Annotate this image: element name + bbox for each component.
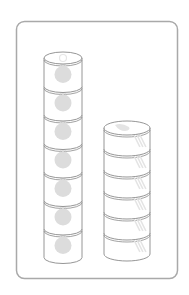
can-lid bbox=[104, 121, 150, 135]
fruit-icon bbox=[55, 180, 72, 197]
fruit-icon bbox=[55, 209, 72, 226]
right-stack bbox=[104, 121, 150, 261]
can-lid bbox=[44, 52, 82, 64]
left-stack bbox=[44, 52, 82, 264]
figure-canvas bbox=[0, 0, 189, 295]
fruit-icon bbox=[55, 66, 72, 83]
frame-border bbox=[17, 22, 178, 279]
fruit-icon bbox=[55, 123, 72, 140]
cans-illustration bbox=[0, 0, 189, 295]
fruit-icon bbox=[55, 95, 72, 112]
fruit-icon bbox=[55, 152, 72, 169]
fruit-icon bbox=[55, 237, 72, 254]
